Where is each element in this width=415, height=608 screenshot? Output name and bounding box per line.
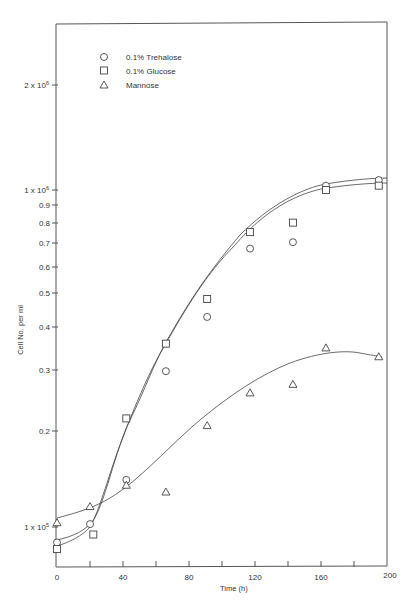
circle-marker-icon — [87, 521, 94, 528]
x-label-0: 0 — [55, 573, 60, 582]
triangle-marker-icon — [162, 488, 170, 495]
y-axis-title: Cell No. per ml — [16, 305, 25, 355]
chart-canvas: 2 x 106 1 x 106 0.9 0.8 0.7 0.6 0.5 0.4 … — [0, 0, 415, 608]
y-label-0.2: 0.2 — [39, 427, 51, 436]
square-marker-icon — [247, 229, 254, 236]
triangle-marker-icon — [289, 380, 297, 387]
plot-frame — [56, 22, 387, 567]
square-marker-icon — [289, 219, 296, 226]
x-label-40: 40 — [119, 573, 128, 582]
glucose-curve — [57, 183, 387, 546]
mannose-curve — [57, 352, 382, 518]
y-label-1e6: 1 x 106 — [24, 185, 49, 195]
square-marker-icon — [123, 415, 130, 422]
legend: 0.1% Trehalose 0.1% Glucose Mannose — [100, 53, 182, 90]
circle-marker-icon — [247, 245, 254, 252]
legend-label-mannose: Mannose — [126, 81, 159, 90]
y-label-0.3: 0.3 — [39, 366, 51, 375]
circle-marker-icon — [204, 313, 211, 320]
x-label-120: 120 — [248, 573, 262, 582]
triangle-marker-icon — [203, 422, 211, 429]
legend-label-glucose: 0.1% Glucose — [126, 67, 176, 76]
square-marker-icon — [101, 67, 108, 74]
top-border — [56, 22, 387, 24]
triangle-marker-icon — [375, 353, 383, 360]
y-label-2e6: 2 x 106 — [24, 80, 49, 90]
y-label-0.9: 0.9 — [39, 201, 51, 210]
triangle-marker-icon — [100, 81, 108, 88]
triangle-marker-icon — [322, 344, 330, 351]
square-marker-icon — [90, 531, 97, 538]
square-marker-icon — [54, 546, 61, 553]
fitted-curves — [57, 178, 387, 546]
triangle-marker-icon — [246, 389, 254, 396]
y-ticks — [52, 85, 58, 527]
x-tick-labels: 0 40 80 120 160 200 — [55, 571, 397, 582]
triangle-marker-icon — [53, 519, 61, 526]
x-axis-title: Time (h) — [220, 584, 248, 593]
y-label-0.8: 0.8 — [39, 219, 51, 228]
square-marker-icon — [162, 340, 169, 347]
x-label-200: 200 — [383, 571, 397, 580]
y-label-0.6: 0.6 — [39, 263, 51, 272]
x-label-80: 80 — [185, 573, 194, 582]
square-marker-icon — [375, 182, 382, 189]
y-tick-labels: 2 x 106 1 x 106 0.9 0.8 0.7 0.6 0.5 0.4 … — [24, 80, 50, 532]
y-label-0.7: 0.7 — [39, 239, 51, 248]
y-label-1e5: 1 x 105 — [24, 522, 49, 532]
circle-marker-icon — [101, 54, 108, 61]
circle-marker-icon — [54, 539, 61, 546]
circle-marker-icon — [162, 368, 169, 375]
square-marker-icon — [322, 187, 329, 194]
square-marker-icon — [204, 295, 211, 302]
circle-marker-icon — [289, 239, 296, 246]
y-label-0.4: 0.4 — [39, 323, 51, 332]
x-label-160: 160 — [314, 573, 328, 582]
legend-label-trehalose: 0.1% Trehalose — [126, 53, 182, 62]
y-label-0.5: 0.5 — [39, 289, 51, 298]
